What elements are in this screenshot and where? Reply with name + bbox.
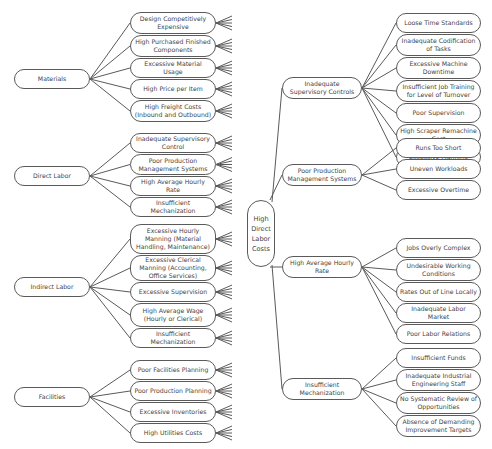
left-cause-0-2: Excessive Material Usage — [130, 58, 216, 78]
connector-line — [90, 370, 130, 397]
connector-line — [362, 88, 396, 113]
right-cause-0-1: Inadequate Codification of Tasks — [396, 34, 481, 56]
connector-line — [216, 143, 232, 150]
connector-line — [362, 88, 396, 157]
connector-line — [90, 287, 130, 338]
connector-line — [90, 391, 130, 397]
right-cause-3-1-label: Inadequate Industrial Engineering Staff — [400, 372, 477, 388]
right-cause-3-0: Insufficient Funds — [396, 348, 481, 368]
connector-line — [216, 338, 232, 345]
connector-line — [216, 111, 232, 118]
connector-line — [216, 261, 232, 268]
connector-line — [216, 207, 232, 214]
connector-line — [216, 292, 232, 299]
right-cause-2-3-label: Inadequate Labor Market — [400, 305, 477, 321]
left-cause-2-4-label: Insufficient Mechanization — [134, 330, 212, 346]
connector-line — [216, 89, 232, 96]
left-cause-3-0-label: Poor Facilities Planning — [138, 366, 209, 374]
root-node-label: High Direct Labor Costs — [251, 214, 271, 254]
connector-line — [362, 88, 396, 91]
left-category-2: Indirect Labor — [14, 277, 90, 297]
connector-line — [90, 268, 130, 287]
left-cause-2-2-label: Excessive Supervision — [139, 288, 207, 296]
connector-line — [216, 136, 232, 143]
connector-line — [216, 46, 232, 53]
connector-line — [216, 16, 232, 23]
right-category-3-label: Insufficient Mechanization — [286, 381, 358, 397]
connector-line — [362, 267, 396, 292]
right-cause-1-0: Runs Too Short — [396, 138, 481, 158]
right-cause-0-0-label: Loose Time Standards — [404, 19, 472, 27]
right-category-2-label: High Average Hourly Rate — [286, 259, 358, 275]
right-cause-2-1-label: Undesirable Working Conditions — [400, 262, 477, 278]
right-category-1-label: Poor Production Management Systems — [286, 167, 358, 183]
right-category-2: High Average Hourly Rate — [282, 256, 362, 278]
right-cause-0-0: Loose Time Standards — [396, 13, 481, 33]
left-category-2-label: Indirect Labor — [31, 283, 74, 291]
left-cause-2-0: Excessive Hourly Manning (Material Handl… — [130, 224, 216, 254]
right-cause-3-3-label: Absence of Demanding Improvement Targets — [400, 418, 477, 434]
left-cause-1-2: High Average Hourly Rate — [130, 176, 216, 196]
connector-line — [216, 104, 232, 111]
connector-line — [90, 397, 130, 412]
connector-line — [272, 265, 282, 389]
connector-line — [216, 285, 232, 292]
connector-line — [216, 391, 232, 398]
right-category-0: Inadequate Supervisory Controls — [282, 77, 362, 99]
right-category-1: Poor Production Management Systems — [282, 164, 362, 186]
right-cause-3-2-label: No Systematic Review of Opportunities — [400, 395, 477, 411]
left-cause-2-4: Insufficient Mechanization — [130, 328, 216, 348]
left-cause-2-2: Excessive Supervision — [130, 282, 216, 302]
right-cause-0-3: Insufficient Job Training for Level of T… — [396, 80, 481, 102]
right-cause-1-1: Uneven Workloads — [396, 159, 481, 179]
left-cause-1-3-label: Insufficient Mechanization — [134, 199, 212, 215]
left-cause-2-3: High Average Wage (Hourly or Clerical) — [130, 303, 216, 327]
right-cause-3-2: No Systematic Review of Opportunities — [396, 392, 481, 414]
connector-line — [216, 179, 232, 186]
connector-line — [216, 315, 232, 322]
left-cause-1-1-label: Poor Production Management Systems — [134, 157, 212, 173]
left-cause-0-2-label: Excessive Material Usage — [134, 60, 212, 76]
right-cause-2-2: Rates Out of Line Locally — [396, 282, 481, 302]
left-cause-0-3-label: High Price per Item — [143, 85, 203, 93]
left-cause-0-4: High Freight Costs (Inbound and Outbound… — [130, 100, 216, 122]
right-cause-1-1-label: Uneven Workloads — [410, 165, 468, 173]
connector-line — [90, 165, 130, 177]
right-cause-2-1: Undesirable Working Conditions — [396, 259, 481, 281]
connector-line — [216, 23, 232, 30]
left-cause-0-1: High Purchased Finished Components — [130, 35, 216, 57]
left-cause-0-4-label: High Freight Costs (Inbound and Outbound… — [134, 103, 212, 119]
right-cause-0-4: Poor Supervision — [396, 103, 481, 123]
connector-line — [216, 426, 232, 433]
right-cause-1-2: Excessive Overtime — [396, 180, 481, 200]
left-cause-3-2: Excessive Inventories — [130, 402, 216, 422]
left-cause-0-1-label: High Purchased Finished Components — [134, 38, 212, 54]
right-cause-2-4: Poor Labor Relations — [396, 324, 481, 344]
right-category-3: Insufficient Mechanization — [282, 378, 362, 400]
right-cause-0-4-label: Poor Supervision — [413, 109, 465, 117]
right-cause-2-2-label: Rates Out of Line Locally — [400, 288, 477, 296]
left-cause-3-1: Poor Production Planning — [130, 381, 216, 401]
left-cause-3-2-label: Excessive Inventories — [140, 408, 207, 416]
connector-line — [216, 68, 232, 75]
left-category-3-label: Facilities — [39, 393, 66, 401]
left-cause-1-2-label: High Average Hourly Rate — [134, 178, 212, 194]
right-cause-2-0-label: Jobs Overly Complex — [406, 244, 470, 252]
right-cause-1-0-label: Runs Too Short — [416, 144, 462, 152]
right-category-0-label: Inadequate Supervisory Controls — [286, 80, 358, 96]
right-cause-3-0-label: Insufficient Funds — [411, 354, 465, 362]
left-category-1-label: Direct Labor — [33, 172, 71, 180]
connector-line — [216, 384, 232, 391]
connector-line — [362, 267, 396, 270]
right-cause-2-3: Inadequate Labor Market — [396, 303, 481, 323]
connector-line — [216, 308, 232, 315]
connector-line — [216, 82, 232, 89]
connector-line — [270, 175, 282, 200]
left-cause-2-0-label: Excessive Hourly Manning (Material Handl… — [134, 227, 212, 251]
right-cause-1-2-label: Excessive Overtime — [408, 186, 469, 194]
left-cause-3-3-label: High Utilities Costs — [144, 429, 202, 437]
left-cause-3-3: High Utilities Costs — [130, 423, 216, 443]
right-cause-0-2: Excessive Machine Downtime — [396, 57, 481, 79]
right-cause-0-1-label: Inadequate Codification of Tasks — [400, 37, 477, 53]
connector-line — [362, 88, 396, 135]
